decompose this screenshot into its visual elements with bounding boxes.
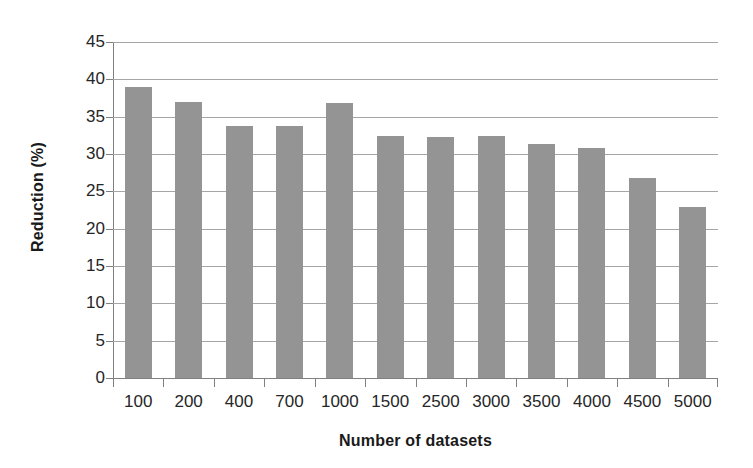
x-axis-tick bbox=[214, 379, 215, 387]
x-axis-tick-label: 200 bbox=[174, 392, 202, 412]
x-axis-tick bbox=[315, 379, 316, 387]
bar bbox=[377, 136, 404, 378]
x-axis-tick bbox=[113, 379, 114, 387]
bar bbox=[276, 126, 303, 378]
bar bbox=[125, 87, 152, 378]
bar bbox=[175, 102, 202, 378]
x-axis-tick-label: 4000 bbox=[573, 392, 611, 412]
x-axis-tick bbox=[264, 379, 265, 387]
y-axis-tick bbox=[106, 266, 113, 267]
x-axis-tick-label: 4500 bbox=[623, 392, 661, 412]
bar bbox=[326, 103, 353, 378]
x-axis-tick-label: 400 bbox=[225, 392, 253, 412]
y-axis-tick-label: 45 bbox=[61, 32, 105, 52]
y-axis-tick bbox=[106, 42, 113, 43]
bar bbox=[478, 136, 505, 378]
y-axis-tick bbox=[106, 117, 113, 118]
y-axis-tick-label: 30 bbox=[61, 144, 105, 164]
x-axis-tick bbox=[416, 379, 417, 387]
x-axis-tick bbox=[617, 379, 618, 387]
x-axis-title: Number of datasets bbox=[113, 432, 718, 450]
x-axis-tick-label: 1000 bbox=[321, 392, 359, 412]
y-axis-title: Reduction (%) bbox=[29, 97, 47, 297]
y-axis-tick bbox=[106, 341, 113, 342]
x-axis-ticks bbox=[113, 379, 718, 387]
x-axis-tick-label: 100 bbox=[124, 392, 152, 412]
y-axis-tick bbox=[106, 79, 113, 80]
y-axis-tick-label: 15 bbox=[61, 256, 105, 276]
x-axis-tick bbox=[466, 379, 467, 387]
y-axis-tick bbox=[106, 191, 113, 192]
x-axis-tick-label: 5000 bbox=[674, 392, 712, 412]
y-axis-tick-label: 25 bbox=[61, 181, 105, 201]
x-axis-tick bbox=[567, 379, 568, 387]
bar bbox=[578, 148, 605, 378]
x-axis-tick bbox=[163, 379, 164, 387]
bar-series bbox=[113, 42, 718, 378]
y-axis-tick-labels: 454035302520151050 bbox=[55, 42, 105, 378]
bar bbox=[226, 126, 253, 378]
y-axis-tick-label: 0 bbox=[61, 368, 105, 388]
y-axis-tick bbox=[106, 303, 113, 304]
x-axis-tick bbox=[668, 379, 669, 387]
x-axis-tick bbox=[717, 379, 718, 387]
x-axis-tick-label: 1500 bbox=[371, 392, 409, 412]
bar bbox=[629, 178, 656, 378]
y-axis-tick-label: 5 bbox=[61, 331, 105, 351]
y-axis-tick-label: 20 bbox=[61, 219, 105, 239]
y-axis-tick bbox=[106, 378, 113, 379]
x-axis-tick-label: 700 bbox=[275, 392, 303, 412]
plot-area bbox=[113, 42, 718, 378]
bar bbox=[679, 207, 706, 378]
x-axis-tick-label: 3000 bbox=[472, 392, 510, 412]
y-axis-tick-label: 10 bbox=[61, 293, 105, 313]
x-axis-tick-label: 2500 bbox=[422, 392, 460, 412]
bar bbox=[427, 137, 454, 378]
y-axis-tick bbox=[106, 229, 113, 230]
bar-chart: Reduction (%) 454035302520151050 1002004… bbox=[0, 0, 753, 468]
bar bbox=[528, 144, 555, 378]
y-axis-ticks bbox=[106, 42, 113, 378]
y-axis-tick-label: 35 bbox=[61, 107, 105, 127]
x-axis-tick-label: 3500 bbox=[523, 392, 561, 412]
y-axis-tick-label: 40 bbox=[61, 69, 105, 89]
x-axis-tick-labels: 1002004007001000150025003000350040004500… bbox=[113, 392, 718, 418]
y-axis-tick bbox=[106, 154, 113, 155]
x-axis-tick bbox=[516, 379, 517, 387]
x-axis-tick bbox=[365, 379, 366, 387]
